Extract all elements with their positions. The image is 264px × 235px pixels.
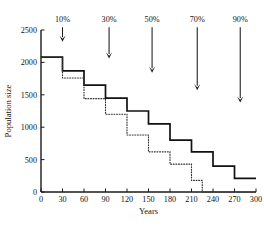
- annotation-arrow-50pct: 50%: [145, 15, 160, 73]
- y-tick-label: 1000: [21, 123, 37, 132]
- x-tick-label: 150: [142, 195, 154, 204]
- annotation-arrow-90pct: 90%: [233, 15, 248, 102]
- x-tick-label: 30: [58, 195, 66, 204]
- annotation-arrow-10pct: 10%: [55, 15, 70, 41]
- y-tick-label: 0: [33, 188, 37, 197]
- x-tick-label: 0: [39, 195, 43, 204]
- annotation-label: 50%: [145, 15, 160, 24]
- x-tick-label: 240: [207, 195, 219, 204]
- y-tick-label: 1500: [21, 91, 37, 100]
- population-decline-chart: 0500100015002000250003060901201501802102…: [0, 0, 264, 235]
- x-tick-label: 210: [185, 195, 197, 204]
- x-tick-label: 60: [80, 195, 88, 204]
- x-tick-label: 180: [164, 195, 176, 204]
- annotation-label: 10%: [55, 15, 70, 24]
- solid-step-curve: [41, 57, 256, 178]
- annotation-arrow-70pct: 70%: [190, 15, 205, 90]
- axes: 0500100015002000250003060901201501802102…: [21, 26, 263, 204]
- x-tick-label: 90: [101, 195, 109, 204]
- annotation-label: 30%: [102, 15, 117, 24]
- y-tick-label: 500: [25, 156, 37, 165]
- y-axis-title: Population size: [3, 84, 13, 137]
- x-axis-title: Years: [139, 206, 159, 216]
- y-tick-label: 2000: [21, 58, 37, 67]
- y-tick-label: 2500: [21, 26, 37, 35]
- annotation-arrow-30pct: 30%: [102, 15, 117, 58]
- annotation-label: 70%: [190, 15, 205, 24]
- data-series: [41, 57, 256, 192]
- x-tick-label: 300: [250, 195, 262, 204]
- x-tick-label: 120: [121, 195, 133, 204]
- x-tick-label: 270: [228, 195, 240, 204]
- annotation-label: 90%: [233, 15, 248, 24]
